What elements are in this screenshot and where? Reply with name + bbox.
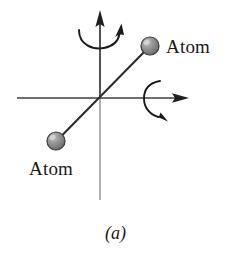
molecular-bond <box>58 48 149 140</box>
bond-line <box>58 48 149 140</box>
vertical-rotation-axis <box>95 10 104 200</box>
rotation-arc-x-axis <box>144 81 160 117</box>
diatomic-molecule-rotation-figure: Atom Atom (a) <box>0 0 231 261</box>
rotation-arrow-x-axis <box>144 81 168 122</box>
atom-label-top-right: Atom <box>166 37 210 56</box>
atom-label-bottom-left: Atom <box>29 159 73 178</box>
figure-caption: (a) <box>0 224 231 242</box>
rotation-arrow-y-axis <box>79 24 124 49</box>
atom-top-right <box>141 37 159 55</box>
atom-bottom-left <box>47 132 65 150</box>
